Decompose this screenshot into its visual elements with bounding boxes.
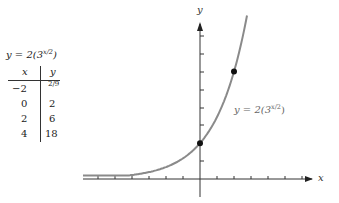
y-axis-label: y <box>197 4 203 15</box>
curve-label: y = 2(3x/2) <box>234 103 285 115</box>
x-axis-arrow-icon <box>305 176 313 182</box>
point-2-6 <box>231 69 237 75</box>
y-axis <box>200 24 204 197</box>
point-0-2 <box>197 140 203 146</box>
x-axis-label: x <box>318 172 324 183</box>
graph <box>0 0 339 203</box>
exponential-curve <box>83 16 247 176</box>
y-axis-arrow-icon <box>197 22 203 31</box>
